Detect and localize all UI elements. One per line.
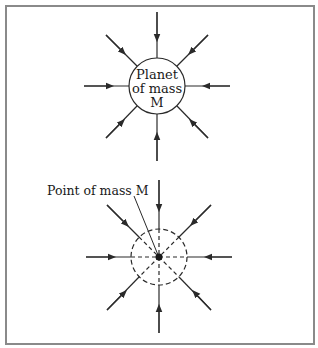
point-mass-label: Point of mass M xyxy=(47,183,149,198)
arrow-nw-icon xyxy=(106,35,123,52)
planet-label-line2: of mass xyxy=(132,81,182,96)
arrow-ne-icon xyxy=(193,205,211,223)
arrow-sw-icon xyxy=(107,293,124,310)
arrow-se-icon xyxy=(192,122,208,138)
planet-label-line3: M xyxy=(150,95,163,110)
arrow-sw-icon xyxy=(106,122,122,138)
arrow-ne-icon xyxy=(191,35,208,52)
callout-leader-line xyxy=(134,196,158,255)
arrow-nw-icon xyxy=(107,205,126,224)
point-mass-dot xyxy=(156,254,163,261)
gravitational-field-diagram: Planet of mass M Point of mass M xyxy=(0,0,318,348)
arrow-se-icon xyxy=(195,293,211,310)
planet-label-line1: Planet xyxy=(136,67,179,82)
